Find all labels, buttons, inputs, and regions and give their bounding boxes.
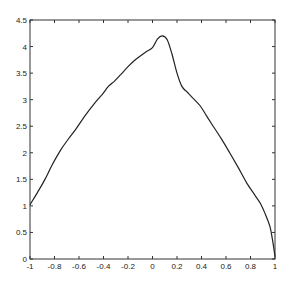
x-tick-label: 0.6 (220, 262, 232, 271)
y-tick-label: 3.5 (16, 69, 28, 78)
x-tick-label: -0.4 (97, 262, 111, 271)
x-tick-label: 0 (150, 262, 155, 271)
y-tick-label: 0.5 (16, 228, 28, 237)
y-tick-label: 1.5 (16, 175, 28, 184)
line-chart: -1-0.8-0.6-0.4-0.200.20.40.60.81 00.511.… (0, 0, 289, 289)
data-line (30, 36, 275, 256)
x-tick-label: 0.4 (196, 262, 208, 271)
x-tick-label: 0.8 (245, 262, 257, 271)
y-tick-label: 3 (23, 96, 28, 105)
x-tick-label: -0.2 (121, 262, 135, 271)
y-tick-label: 2.5 (16, 122, 28, 131)
plot-frame (30, 20, 275, 259)
y-tick-label: 0 (23, 255, 28, 264)
y-axis: 00.511.522.533.544.5 (16, 16, 275, 264)
y-tick-label: 4 (23, 43, 28, 52)
x-tick-label: 0.2 (171, 262, 183, 271)
x-tick-label: -0.6 (72, 262, 86, 271)
x-tick-label: -0.8 (48, 262, 62, 271)
y-tick-label: 1 (23, 202, 28, 211)
axes-box (30, 20, 275, 259)
x-tick-label: -1 (26, 262, 34, 271)
y-tick-label: 2 (23, 149, 28, 158)
x-tick-label: 1 (273, 262, 278, 271)
y-tick-label: 4.5 (16, 16, 28, 25)
